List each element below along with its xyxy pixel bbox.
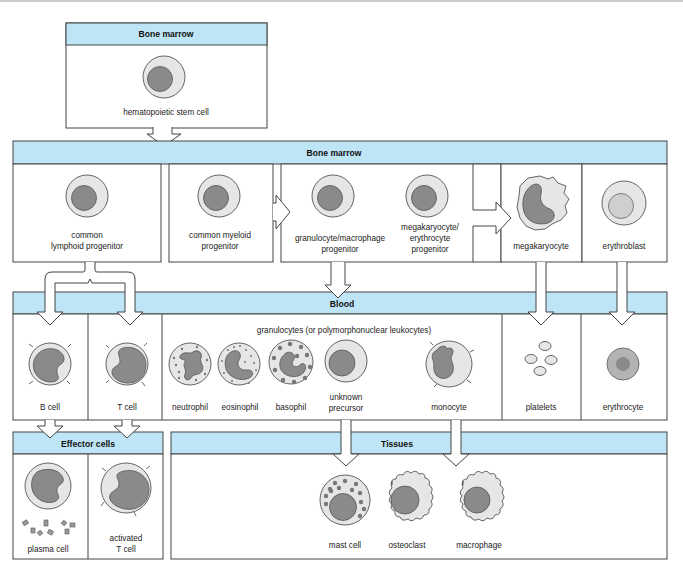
cell-label: monocyte <box>431 403 467 412</box>
cell-label: common myeloid <box>189 231 251 240</box>
cell-label: neutrophil <box>172 403 208 412</box>
cell-label: granulocyte/macrophage <box>295 234 386 243</box>
cell-nucleus-icon <box>318 186 343 211</box>
cell-label: common <box>71 231 103 240</box>
section-header-band <box>171 432 667 454</box>
platelet-icon <box>539 342 551 351</box>
section-title: Tissues <box>381 439 413 449</box>
cell-label: osteoclast <box>389 541 427 550</box>
cell-label: unknown <box>330 393 363 402</box>
platelet-icon <box>534 367 546 376</box>
cell-label: T cell <box>117 403 137 412</box>
cell-label: lymphoid progenitor <box>51 242 123 251</box>
cell-label: erythrocyte <box>410 234 451 243</box>
cell-label: plasma cell <box>28 545 69 554</box>
section-title: Blood <box>330 299 354 309</box>
cell-nucleus-icon <box>432 346 453 378</box>
section-title: Bone marrow <box>139 29 194 39</box>
cell-label: progenitor <box>412 245 449 254</box>
cell-nucleus-icon <box>464 487 490 513</box>
platelet-icon <box>545 356 557 365</box>
cell-nucleus-icon <box>412 186 437 211</box>
group-label-granulocytes: granulocytes (or polymorphonuclear leuko… <box>257 326 432 335</box>
cell-label: macrophage <box>456 541 502 550</box>
cell-label: precursor <box>329 404 364 413</box>
cell-nucleus-icon <box>391 486 419 514</box>
cell-label: megakaryocyte <box>513 242 569 251</box>
cell-label: eosinophil <box>222 403 259 412</box>
cell-label: basophil <box>276 403 307 412</box>
cell-label: B cell <box>40 403 60 412</box>
cell-nucleus-icon <box>330 494 357 521</box>
section-title: Bone marrow <box>307 148 362 158</box>
hematopoiesis-diagram: Bone marrow hematopoietic stem cell Bone… <box>0 0 683 573</box>
cell-center-icon <box>616 357 630 371</box>
cell-nucleus-icon <box>72 186 97 211</box>
cell-label: platelets <box>526 403 557 412</box>
cell-nucleus-icon <box>329 350 355 376</box>
cell-label: hematopoietic stem cell <box>123 108 209 117</box>
cell-nucleus-icon <box>609 194 634 219</box>
cell-label: T cell <box>116 545 136 554</box>
cell-label: progenitor <box>202 242 239 251</box>
section-title: Effector cells <box>61 439 115 449</box>
cell-nucleus-icon <box>204 186 229 211</box>
cell-label: erythrocyte <box>603 403 644 412</box>
cell-nucleus-icon <box>148 67 173 92</box>
section-bone-marrow-top: Bone marrow hematopoietic stem cell <box>66 23 267 128</box>
cell-label: mast cell <box>329 541 361 550</box>
cell-label: activated <box>110 534 143 543</box>
cell-label: progenitor <box>322 245 359 254</box>
platelet-icon <box>525 355 537 364</box>
cell-label: erythroblast <box>603 242 647 251</box>
cell-label: megakaryocyte/ <box>401 223 460 232</box>
cell-nucleus-icon <box>32 469 64 502</box>
